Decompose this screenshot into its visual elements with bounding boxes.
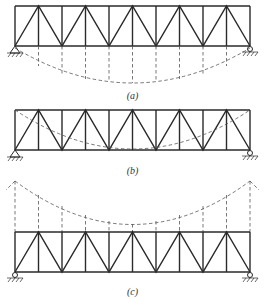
panel-label-b: (b) — [127, 165, 139, 177]
truss-diagram: (a) — [0, 0, 266, 305]
roller-support-icon — [242, 273, 258, 283]
left-backstay — [6, 181, 15, 190]
panel-a: (a) — [7, 6, 258, 102]
panel-c: (c) — [6, 181, 259, 298]
panel-label-c: (c) — [127, 286, 139, 298]
panel-label-a: (a) — [127, 90, 139, 102]
hangers — [39, 195, 227, 232]
hangers — [39, 46, 227, 83]
roller-support-icon — [242, 151, 258, 161]
roller-support-icon — [7, 273, 23, 283]
cable-curve — [15, 181, 250, 225]
pin-support-icon — [7, 150, 23, 161]
panel-b: (b) — [7, 110, 258, 177]
truss-a — [15, 6, 250, 46]
right-backstay — [250, 181, 259, 190]
truss-c — [15, 232, 250, 272]
